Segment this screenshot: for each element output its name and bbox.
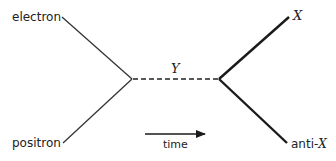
anti-x-particle-label: anti-X xyxy=(291,138,327,150)
electron-label: electron xyxy=(12,11,61,23)
positron-label: positron xyxy=(12,137,61,149)
electron-line xyxy=(62,17,132,79)
mediator-y-label: Y xyxy=(171,62,180,75)
anti-prefix: anti- xyxy=(291,137,318,151)
time-label: time xyxy=(163,139,188,150)
positron-line xyxy=(63,79,132,143)
feynman-diagram: electron positron Y X anti-X time xyxy=(0,0,336,161)
anti-x-particle-line xyxy=(219,79,287,143)
x-particle-label: X xyxy=(293,9,302,22)
x-particle-line xyxy=(219,17,289,79)
anti-x-symbol: X xyxy=(318,137,327,151)
